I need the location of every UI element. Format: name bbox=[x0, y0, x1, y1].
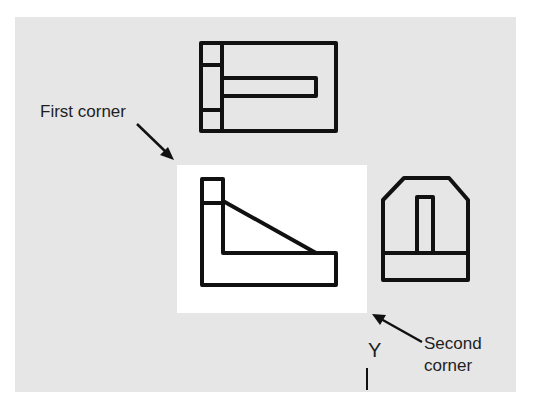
second-corner-label-line2: corner bbox=[424, 355, 482, 377]
ucs-y-axis-label: Y bbox=[368, 340, 381, 360]
first-corner-arrow bbox=[137, 124, 174, 160]
second-corner-label: Second corner bbox=[424, 333, 482, 377]
top-view bbox=[201, 43, 336, 131]
side-view bbox=[383, 178, 468, 280]
second-corner-arrow bbox=[372, 314, 422, 342]
second-corner-label-line1: Second bbox=[424, 333, 482, 355]
first-corner-label: First corner bbox=[40, 103, 126, 120]
selection-window bbox=[177, 165, 367, 313]
